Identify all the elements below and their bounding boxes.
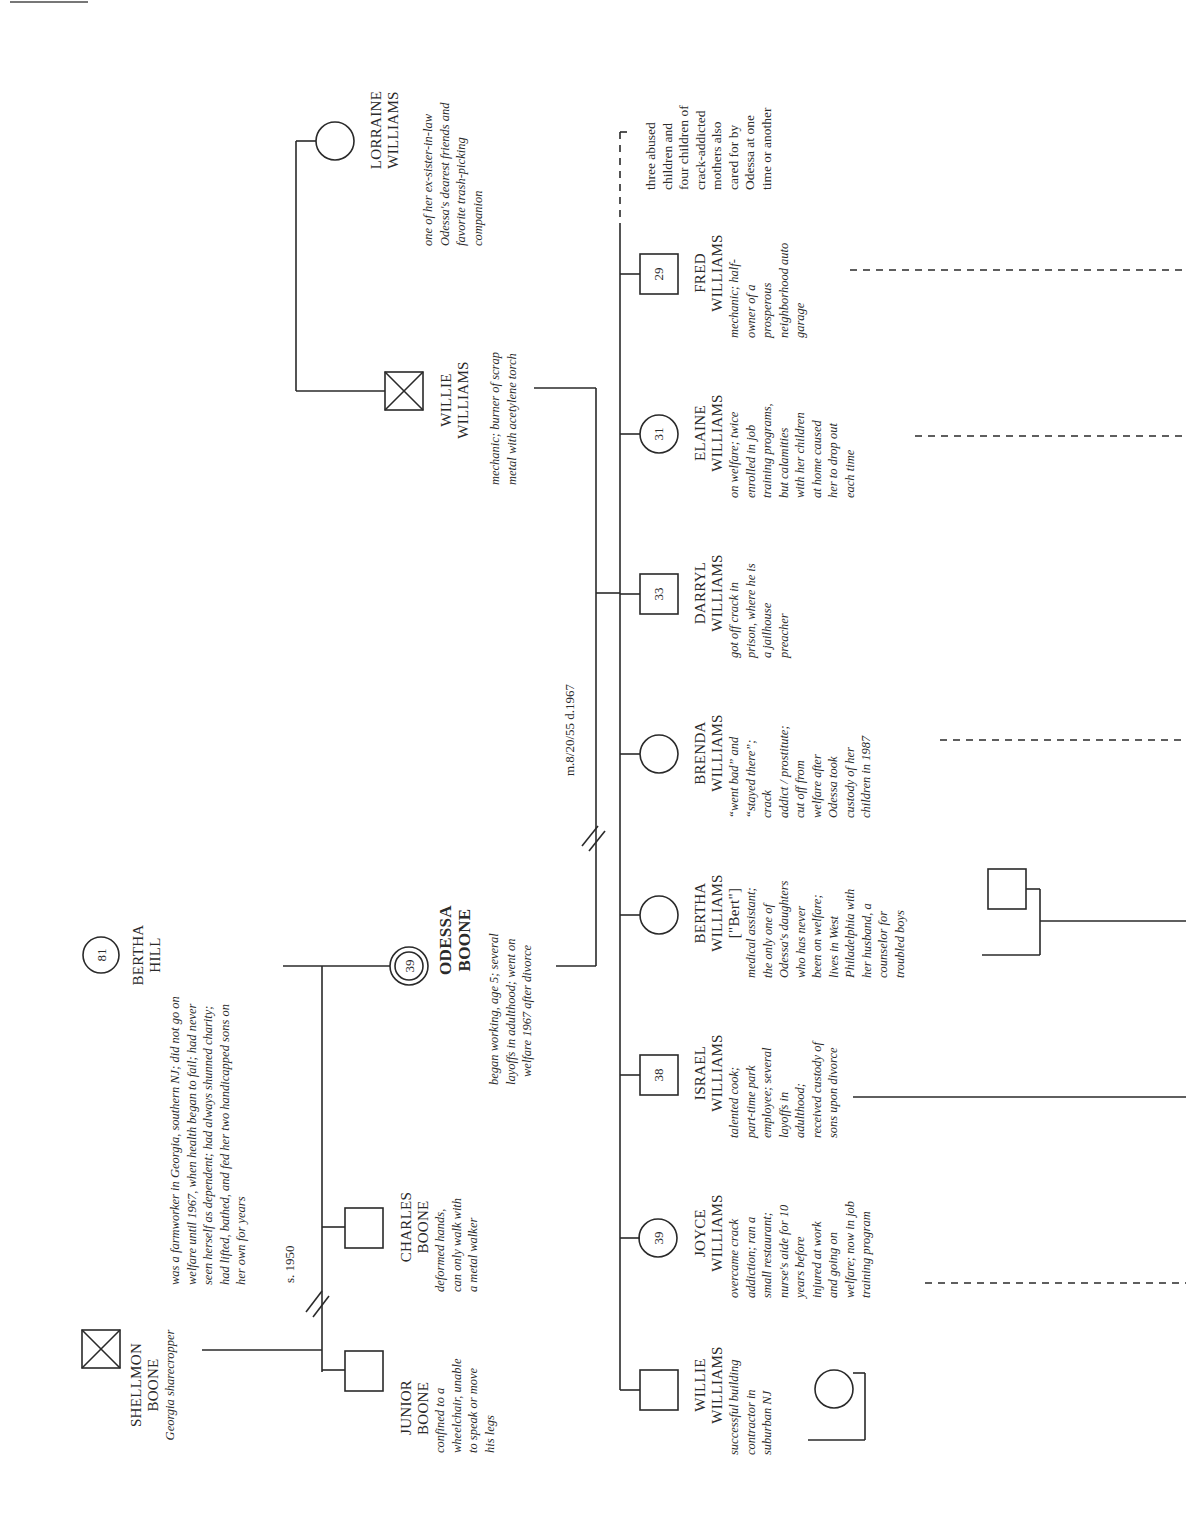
person-name: WILLIAMS (385, 55, 402, 205)
person-name: LORRAINE (368, 55, 385, 205)
desc-line: suburban NJ (759, 1315, 776, 1455)
willie-sr-symbol (385, 372, 423, 410)
desc-line: small restaurant; (759, 1168, 776, 1298)
person-name: CHARLES (398, 1162, 415, 1292)
desc-line: received custody of (809, 1008, 826, 1138)
desc-line: “stayed there”; (743, 688, 760, 818)
junior-symbol (345, 1351, 383, 1391)
desc-line: Odessa took (825, 688, 842, 818)
person-israel-williams: ISRAEL WILLIAMS talented cook; part-time… (692, 1008, 842, 1138)
person-willie-williams-jr: WILLIE WILLIAMS successful building cont… (692, 1315, 776, 1455)
desc-line: counselor for (875, 848, 892, 978)
person-brenda-williams: BRENDA WILLIAMS “went bad” and “stayed t… (692, 688, 875, 818)
person-name: DARRYL (692, 528, 709, 658)
desc-line: with her children (792, 368, 809, 498)
desc-line: the only one of (760, 848, 777, 978)
person-name: WILLIAMS (455, 330, 472, 470)
desc-line: injured at work (809, 1168, 826, 1298)
desc-line: Odessa's daughters (776, 848, 793, 978)
desc-line: mechanic; half- (726, 208, 743, 338)
note-line: Odessa at one (742, 60, 759, 190)
shellmon-symbol (82, 1330, 120, 1368)
person-darryl-williams: DARRYL WILLIAMS got off crack in prison,… (692, 528, 792, 658)
desc-line: got off crack in (726, 528, 743, 658)
person-name: WILLIE (438, 330, 455, 470)
person-willie-sr-desc: mechanic; burner of scrap metal with ace… (487, 305, 520, 485)
person-fred-williams: FRED WILLIAMS mechanic; half- owner of a… (692, 208, 809, 338)
person-joyce-williams: JOYCE WILLIAMS overcame crack addiction;… (692, 1168, 875, 1298)
desc-line: seen herself as dependent; had always sh… (200, 845, 217, 1285)
person-name: WILLIAMS (709, 528, 726, 658)
person-name: BOONE (145, 1305, 162, 1465)
desc-line: neighborhood auto (776, 208, 793, 338)
person-elaine-williams: ELAINE WILLIAMS on welfare; twice enroll… (692, 368, 858, 498)
desc-line: addiction; ran a (743, 1168, 760, 1298)
desc-line: each time (842, 368, 859, 498)
desc-line: owner of a (743, 208, 760, 338)
desc-line: been on welfare; (809, 848, 826, 978)
svg-text:81: 81 (94, 949, 109, 962)
desc-line: welfare; now in job (842, 1168, 859, 1298)
desc-line: one of her ex-sister-in-law (420, 46, 437, 246)
person-name: JOYCE (692, 1168, 709, 1298)
desc-line: training program (858, 1168, 875, 1298)
person-desc: Georgia sharecropper (162, 1305, 179, 1465)
svg-text:31: 31 (651, 428, 666, 441)
person-bertha-hill-name: BERTHA HILL (130, 905, 164, 1005)
person-name: ELAINE (692, 368, 709, 498)
person-name: WILLIAMS (709, 368, 726, 498)
desc-line: Odessa's dearest friends and (437, 46, 454, 246)
desc-line: on welfare; twice (726, 368, 743, 498)
desc-line: addict / prostitute; (776, 688, 793, 818)
person-name: WILLIAMS (709, 1008, 726, 1138)
person-name: ISRAEL (692, 1008, 709, 1138)
person-name: WILLIE (692, 1315, 709, 1455)
svg-text:39: 39 (402, 960, 417, 973)
desc-line: wheelchair, unable (449, 1323, 466, 1453)
desc-line: layoffs in (776, 1008, 793, 1138)
person-name: BOONE (415, 1162, 432, 1292)
person-name: SHELLMON (128, 1305, 145, 1465)
desc-line: had lifted, bathed, and fed her two hand… (217, 845, 234, 1285)
person-charles-boone: CHARLES BOONE deformed hands, can only w… (398, 1162, 482, 1292)
person-willie-williams-sr: WILLIE WILLIAMS (438, 330, 472, 470)
desc-line: custody of her (842, 688, 859, 818)
desc-line: but calamities (776, 368, 793, 498)
charles-symbol (345, 1208, 383, 1248)
desc-line: medical assistant; (743, 848, 760, 978)
foster-children-note: three abused children and four children … (643, 60, 775, 190)
separation-label: s. 1950 (282, 1245, 298, 1283)
desc-line: troubled boys (892, 848, 909, 978)
note-line: children and (660, 60, 677, 190)
person-nickname: ["Bert"] (726, 848, 743, 978)
note-line: three abused (643, 60, 660, 190)
desc-line: her to drop out (825, 368, 842, 498)
desc-line: sons upon divorce (825, 1008, 842, 1138)
desc-line: talented cook; (726, 1008, 743, 1138)
person-name: WILLIAMS (709, 208, 726, 338)
desc-line: layoffs in adulthood; went on (503, 865, 520, 1085)
desc-line: confined to a (432, 1323, 449, 1453)
person-shellmon-boone: SHELLMON BOONE Georgia sharecropper (128, 1305, 179, 1465)
note-line: four children of (676, 60, 693, 190)
desc-line: children in 1987 (858, 688, 875, 818)
person-name: BERTHA (692, 848, 709, 978)
desc-line: crack (759, 688, 776, 818)
desc-line: deformed hands, (432, 1162, 449, 1292)
person-lorraine-desc: one of her ex-sister-in-law Odessa's dea… (420, 46, 486, 246)
desc-line: favorite trash-picking (453, 46, 470, 246)
desc-line: to speak or move (465, 1323, 482, 1453)
person-name: BOONE (455, 840, 474, 1040)
desc-line: enrolled in job (743, 368, 760, 498)
desc-line: successful building (726, 1315, 743, 1455)
desc-line: part-time park (743, 1008, 760, 1138)
note-line: time or another (759, 60, 776, 190)
person-bertha-williams: BERTHA WILLIAMS ["Bert"] medical assista… (692, 848, 908, 978)
marriage-label: m.8/20/55 d.1967 (562, 684, 578, 776)
person-name: WILLIAMS (709, 1315, 726, 1455)
svg-text:33: 33 (651, 588, 666, 601)
desc-line: and going on (825, 1168, 842, 1298)
desc-line: cut off from (792, 688, 809, 818)
desc-line: “went bad” and (726, 688, 743, 818)
desc-line: years before (792, 1168, 809, 1298)
